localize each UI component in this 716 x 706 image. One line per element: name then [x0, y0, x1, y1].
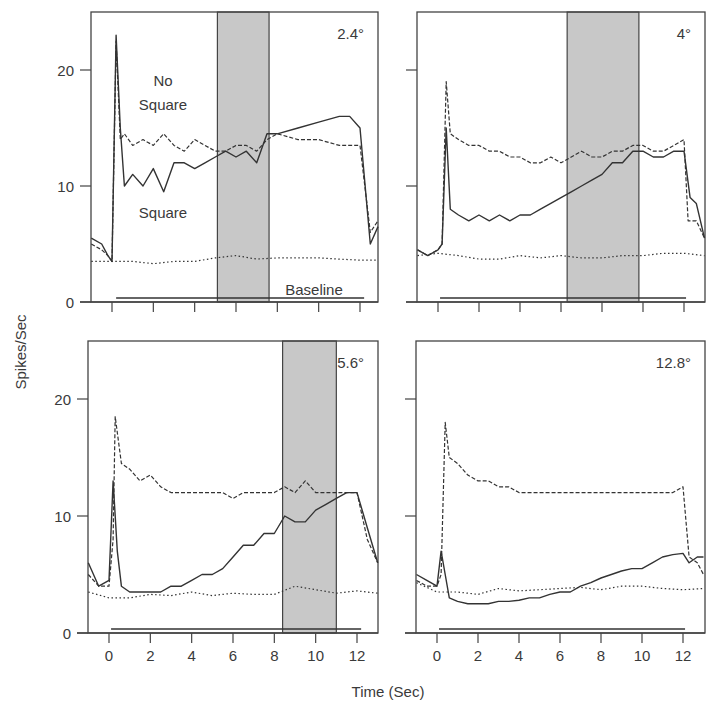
chart-panel: 010202.4°NoSquareSquareBaseline	[57, 12, 378, 312]
x-tick-label: 0	[433, 647, 441, 664]
no-square-series	[418, 82, 705, 256]
y-tick-label: 10	[57, 178, 74, 195]
x-tick-label: 4	[515, 647, 523, 664]
annotation-baseline: Baseline	[285, 281, 343, 298]
figure: Spikes/Sec Time (Sec) 010202.4°NoSquareS…	[0, 0, 716, 706]
x-tick-label: 12	[675, 647, 692, 664]
x-axis-label: Time (Sec)	[352, 683, 425, 700]
square-series	[418, 128, 705, 256]
y-tick-label: 0	[66, 294, 74, 311]
annotation-no: No	[153, 72, 172, 89]
chart-canvas: Spikes/Sec Time (Sec) 010202.4°NoSquareS…	[0, 0, 716, 706]
x-tick-label: 2	[146, 647, 154, 664]
x-tick-label: 8	[597, 647, 605, 664]
chart-panel: 4°	[406, 12, 705, 312]
chart-panel: 02468101212.8°	[405, 341, 705, 664]
x-tick-label: 0	[105, 647, 113, 664]
x-tick-label: 2	[474, 647, 482, 664]
x-tick-label: 10	[307, 647, 324, 664]
y-axis-label: Spikes/Sec	[12, 314, 29, 390]
panel-title: 2.4°	[337, 25, 364, 42]
y-tick-label: 20	[57, 62, 74, 79]
x-tick-label: 6	[229, 647, 237, 664]
panel-title: 4°	[677, 25, 691, 42]
annotation-no-square: Square	[139, 96, 187, 113]
annotation-square: Square	[139, 204, 187, 221]
no-square-series	[417, 422, 704, 586]
panel-frame	[416, 341, 705, 633]
x-tick-label: 10	[634, 647, 651, 664]
shaded-interval	[217, 12, 269, 302]
x-tick-label: 8	[270, 647, 278, 664]
y-tick-label: 20	[54, 391, 71, 408]
x-tick-label: 6	[556, 647, 564, 664]
baseline-series	[418, 253, 705, 259]
panel-title: 12.8°	[656, 354, 691, 371]
chart-panel: 010200246810125.6°	[54, 341, 378, 664]
y-tick-label: 10	[54, 508, 71, 525]
panel-title: 5.6°	[337, 354, 364, 371]
x-tick-label: 12	[349, 647, 366, 664]
square-series	[417, 551, 704, 604]
x-tick-label: 4	[187, 647, 195, 664]
y-tick-label: 0	[63, 625, 71, 642]
